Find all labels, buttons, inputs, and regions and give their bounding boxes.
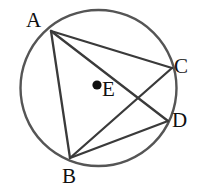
vertex-label-a: A — [26, 10, 41, 31]
chord-a-to-d — [51, 31, 168, 121]
center-point-dot — [92, 80, 101, 89]
chord-a-to-c — [51, 31, 172, 68]
geometry-figure: A B C D E — [0, 0, 199, 193]
vertex-label-c: C — [174, 56, 188, 77]
vertex-label-e: E — [102, 79, 115, 100]
chord-b-to-d — [70, 121, 168, 158]
vertex-label-d: D — [172, 110, 187, 131]
vertex-label-b: B — [62, 166, 76, 187]
chord-a-to-b — [51, 31, 70, 158]
